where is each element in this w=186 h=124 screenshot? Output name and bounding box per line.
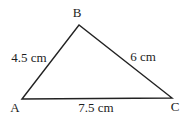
vertex-label-a: A: [10, 100, 20, 115]
side-label-ac: 7.5 cm: [78, 100, 113, 115]
vertex-label-b: B: [73, 5, 82, 20]
side-label-bc: 6 cm: [130, 49, 156, 64]
triangle-diagram: B A C 4.5 cm 6 cm 7.5 cm: [0, 0, 186, 124]
side-label-ab: 4.5 cm: [11, 50, 46, 65]
diagram-svg: B A C 4.5 cm 6 cm 7.5 cm: [0, 0, 186, 124]
vertex-label-c: C: [171, 99, 180, 114]
